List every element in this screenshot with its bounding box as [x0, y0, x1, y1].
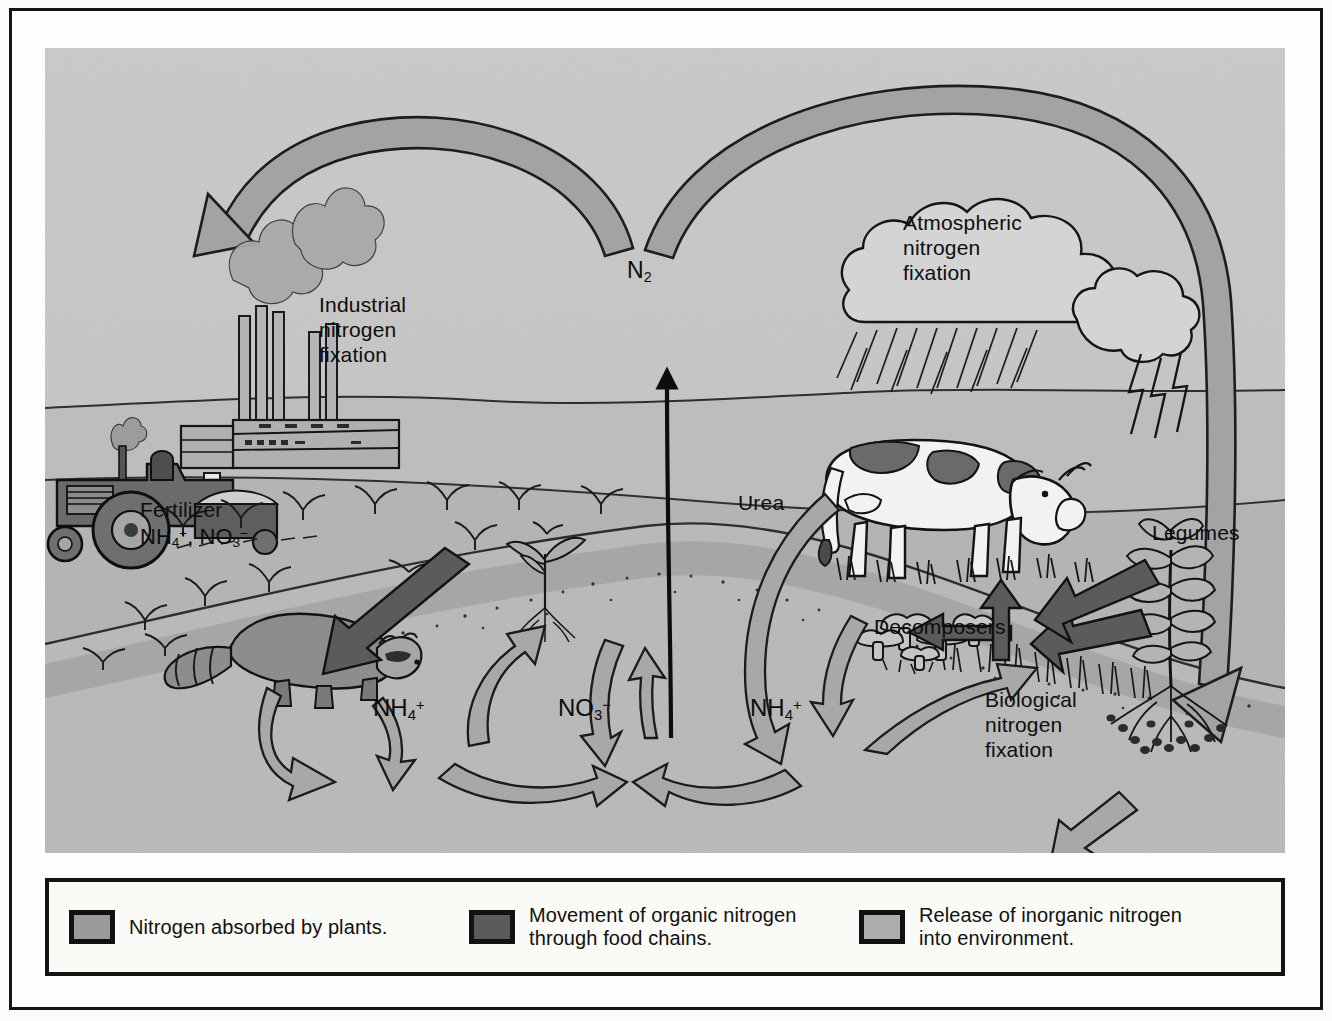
- fertilizer-nitrate: NO: [200, 524, 233, 549]
- legend-swatch-release: [859, 910, 905, 944]
- tractor-driver: [151, 451, 173, 480]
- label-fertilizer-title: Fertilizer: [140, 498, 223, 523]
- legend-label-plants: Nitrogen absorbed by plants.: [129, 916, 388, 939]
- legend-release-line2: into environment.: [919, 927, 1182, 950]
- cow-tail-tuft: [819, 540, 832, 566]
- label-decomposers: Decomposers: [874, 615, 1006, 640]
- legend-swatch-food-chain: [469, 910, 515, 944]
- cow-muzzle: [1056, 499, 1085, 530]
- fertilizer-ammonium: NH: [140, 524, 172, 549]
- legend: Nitrogen absorbed by plants. Movement of…: [45, 878, 1285, 976]
- label-industrial-nitrogen-fixation: Industrial nitrogen fixation: [319, 293, 406, 367]
- label-ammonium-left: NH4+: [373, 694, 425, 723]
- figure-page: Industrial nitrogen fixation Atmospheric…: [0, 0, 1332, 1021]
- label-urea: Urea: [738, 491, 784, 516]
- n2-symbol: N: [627, 257, 644, 283]
- label-n2: N2: [627, 257, 652, 285]
- cow-udder: [845, 494, 881, 513]
- nitrogen-cycle-illustration: Industrial nitrogen fixation Atmospheric…: [45, 48, 1285, 853]
- ammonium-left-sup: +: [416, 697, 425, 713]
- legend-item-plants: Nitrogen absorbed by plants.: [69, 910, 459, 944]
- n2-subscript: 2: [644, 269, 652, 285]
- legend-item-release: Release of inorganic nitrogen into envir…: [859, 904, 1259, 950]
- fertilizer-separator: ,: [187, 524, 199, 549]
- ammonium-right-sup: +: [793, 697, 802, 713]
- label-fertilizer-formulas: NH4+, NO3−: [140, 524, 248, 550]
- label-legumes: Legumes: [1152, 521, 1240, 546]
- nitrate-symbol: NO: [558, 694, 594, 721]
- legend-label-release: Release of inorganic nitrogen into envir…: [919, 904, 1182, 950]
- legend-food-chain-line1: Movement of organic nitrogen: [529, 904, 796, 927]
- fertilizer-nitrate-sup: −: [240, 526, 248, 541]
- label-ammonium-right: NH4+: [750, 694, 802, 723]
- legend-plants-line1: Nitrogen absorbed by plants.: [129, 916, 388, 939]
- legend-item-food-chain: Movement of organic nitrogen through foo…: [469, 904, 849, 950]
- label-nitrate-center: NO3−: [558, 694, 611, 723]
- nitrate-sup: −: [602, 697, 611, 713]
- legend-release-line1: Release of inorganic nitrogen: [919, 904, 1182, 927]
- legend-swatch-plants: [69, 910, 115, 944]
- label-atmospheric-nitrogen-fixation: Atmospheric nitrogen fixation: [903, 211, 1022, 285]
- spreader-wheel: [253, 530, 277, 554]
- fertilizer-nitrate-sub: 3: [233, 535, 241, 550]
- ammonium-right-sub: 4: [785, 707, 793, 723]
- legend-label-food-chain: Movement of organic nitrogen through foo…: [529, 904, 796, 950]
- ammonium-left-symbol: NH: [373, 694, 408, 721]
- legend-food-chain-line2: through food chains.: [529, 927, 796, 950]
- raccoon-nose: [414, 659, 419, 664]
- ammonium-left-sub: 4: [408, 707, 416, 723]
- label-biological-nitrogen-fixation: Biological nitrogen fixation: [985, 688, 1077, 762]
- cow-eye: [1042, 491, 1048, 497]
- ammonium-right-symbol: NH: [750, 694, 785, 721]
- tractor-exhaust-pipe: [119, 446, 126, 480]
